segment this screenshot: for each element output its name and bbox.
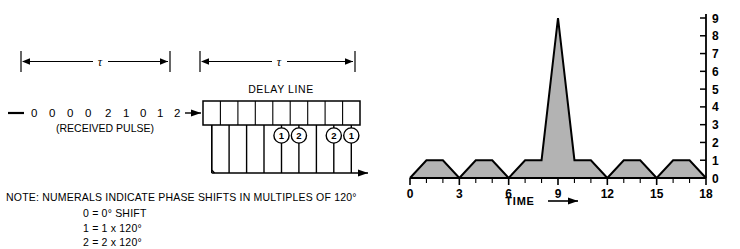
note-block: NOTE: NUMERALS INDICATE PHASE SHIFTS IN …	[6, 191, 357, 248]
y-tick-label: 6	[712, 65, 719, 79]
pulse-digit-7: 1	[157, 107, 163, 119]
pulse-digit-5: 1	[123, 107, 129, 119]
x-axis-major-ticks	[410, 178, 706, 185]
autocorrelation-chart: 0369121518 0123456789 TIME	[407, 12, 719, 208]
legend-line-1: 1 = 1 x 120°	[83, 222, 142, 234]
pulse-digit-3: 0	[85, 107, 91, 119]
tau-label-1: τ	[98, 55, 103, 69]
waveform-fill	[410, 18, 706, 178]
received-pulse-label: (RECEIVED PULSE)	[56, 122, 154, 134]
tau-dimension-group: τ τ	[21, 51, 355, 72]
tau-dimension-2: τ	[200, 51, 355, 72]
x-tick-label: 9	[555, 187, 562, 201]
pulse-digit-4: 2	[105, 107, 111, 119]
note-text: NOTE: NUMERALS INDICATE PHASE SHIFTS IN …	[6, 191, 357, 203]
tau-dimension-1: τ	[21, 51, 170, 72]
tap-weight-8: 1	[344, 128, 359, 143]
chart-plot-area	[410, 18, 706, 178]
x-axis-tick-labels: 0369121518	[407, 187, 713, 201]
tap-weight-5: 2	[291, 128, 306, 143]
tap-weight-4: 1	[274, 128, 289, 143]
y-tick-label: 3	[712, 118, 719, 132]
y-axis-tick-labels: 0123456789	[712, 12, 719, 186]
x-tick-label: 3	[456, 187, 463, 201]
y-tick-label: 7	[712, 47, 719, 61]
y-tick-label: 1	[712, 154, 719, 168]
pulse-digit-6: 0	[140, 107, 146, 119]
x-tick-label: 12	[601, 187, 615, 201]
delay-line-group: DELAY LINE	[203, 83, 368, 173]
y-tick-label: 2	[712, 136, 719, 150]
delay-line-cell-dividers	[220, 101, 342, 125]
pulse-digit-2: 0	[67, 107, 73, 119]
pulse-digit-0: 0	[31, 107, 37, 119]
received-pulse-group: 0 0 0 0 2 1 0 1 2 (RECEIVED PULSE)	[8, 107, 201, 134]
y-tick-label: 9	[712, 12, 719, 26]
tap-weight-8-label: 1	[349, 130, 355, 141]
tap-weight-7: 2	[326, 128, 341, 143]
x-tick-label: 15	[650, 187, 664, 201]
x-axis-title: TIME	[505, 195, 534, 207]
delay-line-box	[203, 101, 360, 125]
y-tick-label: 4	[712, 100, 719, 114]
tau-label-2: τ	[277, 55, 282, 69]
y-tick-label: 5	[712, 83, 719, 97]
y-tick-label: 8	[712, 29, 719, 43]
pulse-compression-figure: τ τ 0 0 0 0 2 1 0 1 2 (RECEIVED PULSE) D…	[0, 0, 740, 249]
pulse-digit-1: 0	[49, 107, 55, 119]
tap-weight-5-label: 2	[296, 130, 301, 141]
tap-weight-4-label: 1	[279, 130, 285, 141]
x-axis-title-group: TIME	[505, 195, 578, 207]
pulse-digit-8: 2	[174, 107, 180, 119]
legend-line-2: 2 = 2 x 120°	[83, 236, 142, 248]
x-tick-label: 18	[699, 187, 713, 201]
tap-weight-7-label: 2	[331, 130, 336, 141]
legend-line-0: 0 = 0° SHIFT	[83, 207, 147, 219]
x-tick-label: 0	[407, 187, 414, 201]
delay-line-title: DELAY LINE	[248, 83, 314, 95]
y-tick-label: 0	[712, 172, 719, 186]
